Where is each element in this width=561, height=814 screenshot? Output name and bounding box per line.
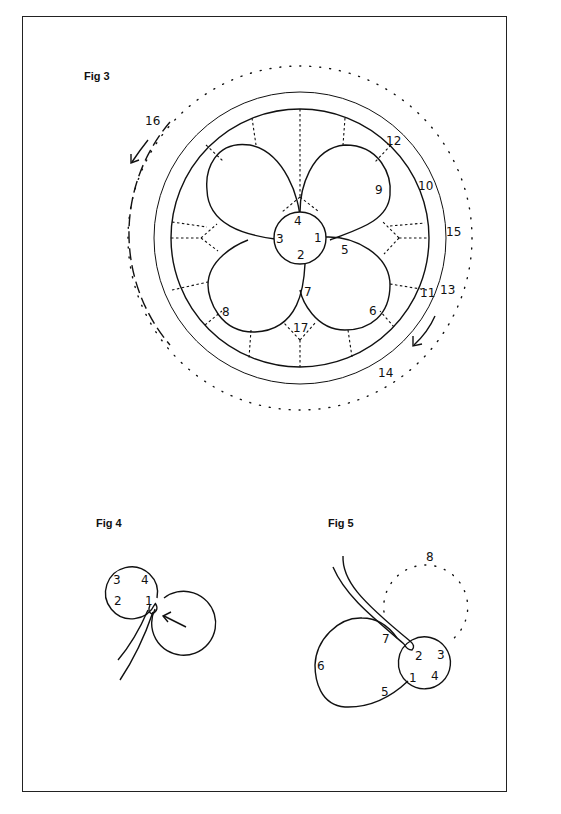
fig4-thread-2 bbox=[120, 612, 153, 680]
fig3-num-11: 11 bbox=[420, 286, 435, 300]
fig4-num-1: 1 bbox=[145, 594, 153, 608]
fig3: Fig 3 bbox=[84, 66, 472, 410]
fig3-label: Fig 3 bbox=[84, 70, 110, 82]
fig3-num-5: 5 bbox=[341, 243, 349, 257]
fig4: Fig 4 3 4 2 1 bbox=[96, 517, 216, 680]
fig3-num-1: 1 bbox=[314, 231, 322, 245]
fig4-outer-ring bbox=[152, 591, 216, 655]
fig3-num-7: 7 bbox=[304, 285, 312, 299]
fig5-num-2: 2 bbox=[415, 649, 423, 663]
illustration-canvas: Fig 3 bbox=[0, 0, 561, 814]
fig3-num-15: 15 bbox=[446, 225, 461, 239]
fig3-num-6: 6 bbox=[369, 304, 377, 318]
fig3-num-13: 13 bbox=[440, 283, 455, 297]
fig5-num-3: 3 bbox=[437, 648, 445, 662]
fig3-num-16: 16 bbox=[145, 114, 160, 128]
fig5-big-loop bbox=[315, 618, 408, 707]
left-dashed-arc bbox=[129, 122, 170, 345]
fig5: Fig 5 8 7 6 5 2 3 1 4 bbox=[315, 517, 468, 707]
fig5-small-ring bbox=[398, 637, 450, 689]
fig5-num-8: 8 bbox=[426, 550, 434, 564]
fig5-thread-1 bbox=[343, 556, 410, 641]
fig3-num-12: 12 bbox=[386, 134, 401, 148]
fig5-num-7: 7 bbox=[382, 632, 390, 646]
fig4-num-3: 3 bbox=[113, 573, 121, 587]
fig5-label: Fig 5 bbox=[328, 517, 354, 529]
fig5-num-5: 5 bbox=[381, 685, 389, 699]
fig3-num-4: 4 bbox=[294, 214, 302, 228]
fig4-num-2: 2 bbox=[114, 594, 122, 608]
arrow-icon bbox=[163, 612, 186, 627]
arrow-14-icon bbox=[413, 316, 435, 346]
fig3-num-8: 8 bbox=[222, 305, 230, 319]
fig3-num-2: 2 bbox=[297, 248, 305, 262]
fig3-num-9: 9 bbox=[375, 183, 383, 197]
fig3-num-3: 3 bbox=[276, 232, 284, 246]
fig5-num-6: 6 bbox=[317, 659, 325, 673]
fig5-num-1: 1 bbox=[409, 671, 417, 685]
fig5-num-4: 4 bbox=[431, 669, 439, 683]
fig3-num-14: 14 bbox=[378, 366, 393, 380]
fig3-num-10: 10 bbox=[418, 179, 433, 193]
fig4-num-4: 4 bbox=[141, 573, 149, 587]
fig4-label: Fig 4 bbox=[96, 517, 123, 529]
fig3-num-17: 17 bbox=[293, 321, 308, 335]
